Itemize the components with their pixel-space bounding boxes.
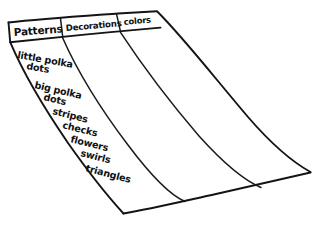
paper-sketch-svg: Patterns Decorations colors little polka… — [0, 0, 325, 226]
sketch-canvas: Patterns Decorations colors little polka… — [0, 0, 325, 226]
